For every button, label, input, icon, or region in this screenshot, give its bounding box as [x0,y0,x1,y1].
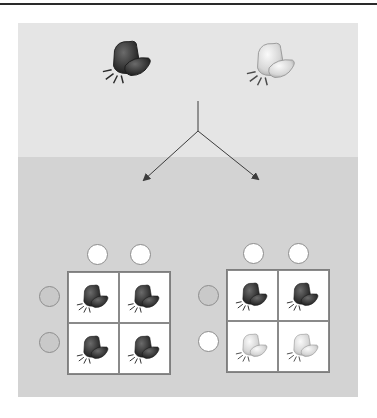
punnett-square-right [226,269,330,373]
allele-circle-recessive [243,243,264,264]
punnett-square-left [67,271,171,375]
offspring-cell [68,272,119,323]
light-flower-icon [285,331,323,363]
allele-circle-recessive [130,244,151,265]
offspring-cell [278,321,329,372]
allele-circle-dominant [39,332,60,353]
offspring-cell [119,323,170,374]
light-flower-icon [234,331,272,363]
allele-circle-recessive [198,331,219,352]
dark-flower-icon [126,282,164,314]
offspring-cell [227,270,278,321]
cross-arrows [0,0,377,200]
offspring-cell [119,272,170,323]
dark-flower-icon [126,333,164,365]
offspring-cell [227,321,278,372]
arrow-right [198,131,258,179]
dark-flower-icon [75,333,113,365]
arrow-left [144,131,198,180]
dark-flower-icon [234,280,272,312]
allele-circle-recessive [288,243,309,264]
offspring-cell [278,270,329,321]
allele-circle-dominant [198,285,219,306]
allele-circle-dominant [39,286,60,307]
dark-flower-icon [75,282,113,314]
dark-flower-icon [285,280,323,312]
allele-circle-recessive [87,244,108,265]
offspring-cell [68,323,119,374]
